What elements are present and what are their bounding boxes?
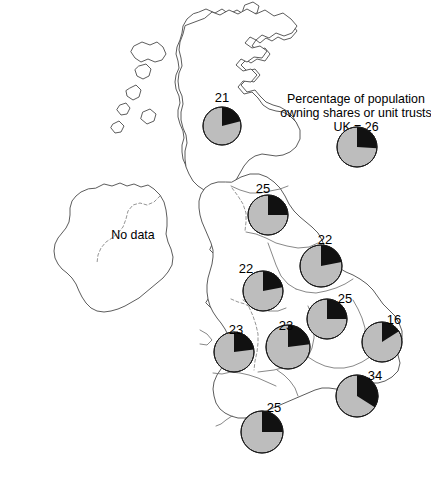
pie-value-label: 25	[256, 181, 270, 196]
legend-reference-pie	[337, 127, 377, 167]
legend-block: Percentage of population owning shares o…	[280, 92, 431, 167]
pie-0	[203, 107, 241, 145]
pie-value-label: 34	[368, 368, 382, 383]
pie-3	[243, 271, 283, 311]
pie-value-label: 23	[279, 318, 293, 333]
pie-5	[362, 322, 402, 362]
ireland-coast	[54, 183, 173, 312]
pie-value-label: 22	[318, 232, 332, 247]
outer-hebrides-north	[131, 42, 166, 62]
pie-value-label: 23	[229, 322, 243, 337]
outer-hebrides-mid	[135, 64, 151, 79]
outer-hebrides-south	[126, 85, 141, 100]
map-canvas: No data Percentage of population owning …	[0, 0, 431, 496]
pie-2	[300, 245, 342, 287]
no-data-label: No data	[111, 228, 155, 242]
small-isle-3	[141, 109, 156, 124]
pie-value-label: 22	[239, 261, 253, 276]
small-isle-2	[111, 121, 124, 133]
uk-share-ownership-map: No data Percentage of population owning …	[0, 0, 431, 496]
pie-1	[248, 195, 288, 235]
pie-9	[241, 411, 283, 453]
legend-title-line2: owning shares or unit trusts	[280, 106, 431, 120]
pie-value-label: 16	[387, 312, 401, 327]
pie-value-label: 25	[267, 400, 281, 415]
legend-pie	[337, 127, 377, 167]
cornwall-tip	[216, 416, 232, 426]
pie-value-label: 21	[215, 90, 229, 105]
pie-6	[214, 332, 254, 372]
legend-title-line1: Percentage of population	[287, 92, 425, 106]
pie-value-label: 25	[338, 291, 352, 306]
wales-west-coast-notch	[200, 330, 212, 345]
small-isle-1	[117, 103, 130, 115]
